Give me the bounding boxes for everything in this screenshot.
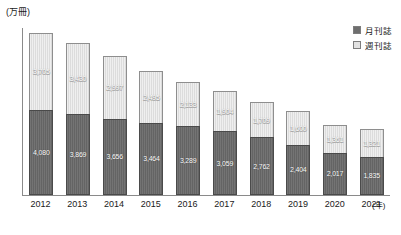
bar-group: 1,6002,404 bbox=[280, 28, 317, 195]
bar-value-weekly: 3,705 bbox=[33, 68, 50, 75]
bar-value-monthly: 3,059 bbox=[217, 160, 234, 167]
bar-value-weekly: 1,321 bbox=[363, 140, 380, 147]
bar-segment-weekly: 1,600 bbox=[286, 111, 310, 144]
stacked-bar: 1,6002,404 bbox=[286, 111, 310, 195]
x-axis-tick-label: 2018 bbox=[243, 199, 280, 209]
bar-segment-weekly: 2,997 bbox=[103, 56, 127, 119]
x-axis-unit-label: (年) bbox=[372, 199, 385, 210]
stacked-bar: 1,7092,762 bbox=[250, 102, 274, 195]
bar-value-monthly: 3,869 bbox=[70, 151, 87, 158]
bar-segment-monthly: 3,869 bbox=[66, 114, 90, 195]
x-axis-tick-label: 2016 bbox=[169, 199, 206, 209]
x-axis-tick-label: 2015 bbox=[132, 199, 169, 209]
bar-value-monthly: 2,762 bbox=[253, 163, 270, 170]
stacked-bar: 1,3612,017 bbox=[323, 124, 347, 195]
bar-group: 1,9043,059 bbox=[207, 28, 244, 195]
bar-group: 2,1333,289 bbox=[170, 28, 207, 195]
stacked-bar: 2,4953,464 bbox=[139, 71, 163, 195]
bar-value-weekly: 3,430 bbox=[70, 75, 87, 82]
stacked-bar: 3,4303,869 bbox=[66, 43, 90, 195]
stacked-bar: 2,1333,289 bbox=[176, 82, 200, 195]
x-axis-tick-label: 2014 bbox=[96, 199, 133, 209]
bar-value-monthly: 4,080 bbox=[33, 149, 50, 156]
bar-series-container: 3,7054,0803,4303,8692,9973,6562,4953,464… bbox=[23, 28, 390, 195]
bar-segment-monthly: 2,017 bbox=[323, 153, 347, 195]
bar-value-weekly: 1,904 bbox=[217, 108, 234, 115]
plot-area: 3,7054,0803,4303,8692,9973,6562,4953,464… bbox=[22, 28, 390, 196]
bar-value-monthly: 3,464 bbox=[143, 155, 160, 162]
x-axis-labels: 2012201320142015201620172018201920202021 bbox=[22, 199, 390, 209]
bar-segment-weekly: 3,430 bbox=[66, 43, 90, 115]
bar-segment-weekly: 1,709 bbox=[250, 102, 274, 138]
bar-value-weekly: 2,495 bbox=[143, 94, 160, 101]
bar-segment-weekly: 1,361 bbox=[323, 125, 347, 153]
bar-segment-monthly: 3,464 bbox=[139, 123, 163, 195]
bar-value-monthly: 1,835 bbox=[363, 172, 380, 179]
x-axis-tick-label: 2020 bbox=[316, 199, 353, 209]
bar-group: 2,4953,464 bbox=[133, 28, 170, 195]
stacked-bar: 2,9973,656 bbox=[103, 56, 127, 195]
bar-segment-weekly: 2,495 bbox=[139, 71, 163, 123]
y-axis-unit-label: (万冊) bbox=[6, 5, 30, 18]
stacked-bar: 1,3211,835 bbox=[360, 129, 384, 195]
x-axis-tick-label: 2012 bbox=[22, 199, 59, 209]
bar-group: 3,4303,869 bbox=[60, 28, 97, 195]
bar-segment-monthly: 1,835 bbox=[360, 157, 384, 195]
bar-segment-monthly: 4,080 bbox=[29, 110, 53, 195]
bar-segment-monthly: 3,289 bbox=[176, 126, 200, 195]
bar-group: 2,9973,656 bbox=[96, 28, 133, 195]
bar-segment-weekly: 3,705 bbox=[29, 33, 53, 110]
bar-group: 3,7054,080 bbox=[23, 28, 60, 195]
magazine-circulation-chart: (万冊) 月刊誌 週刊誌 3,7054,0803,4303,8692,9973,… bbox=[0, 0, 401, 235]
bar-value-weekly: 2,133 bbox=[180, 101, 197, 108]
bar-group: 1,3211,835 bbox=[353, 28, 390, 195]
x-axis-tick-label: 2017 bbox=[206, 199, 243, 209]
bar-segment-monthly: 3,656 bbox=[103, 119, 127, 195]
bar-group: 1,3612,017 bbox=[317, 28, 354, 195]
bar-segment-monthly: 2,404 bbox=[286, 145, 310, 195]
bar-value-weekly: 1,600 bbox=[290, 125, 307, 132]
bar-value-weekly: 1,361 bbox=[327, 136, 344, 143]
bar-group: 1,7092,762 bbox=[243, 28, 280, 195]
bar-segment-weekly: 2,133 bbox=[176, 82, 200, 127]
bar-value-monthly: 3,656 bbox=[106, 153, 123, 160]
bar-value-monthly: 2,404 bbox=[290, 166, 307, 173]
bar-value-monthly: 2,017 bbox=[327, 170, 344, 177]
bar-segment-monthly: 3,059 bbox=[213, 131, 237, 195]
x-axis-line bbox=[22, 195, 390, 196]
bar-segment-monthly: 2,762 bbox=[250, 137, 274, 195]
bar-segment-weekly: 1,321 bbox=[360, 129, 384, 157]
x-axis-tick-label: 2013 bbox=[59, 199, 96, 209]
bar-value-monthly: 3,289 bbox=[180, 157, 197, 164]
bar-value-weekly: 2,997 bbox=[106, 84, 123, 91]
stacked-bar: 1,9043,059 bbox=[213, 91, 237, 195]
x-axis-tick-label: 2019 bbox=[280, 199, 317, 209]
stacked-bar: 3,7054,080 bbox=[29, 33, 53, 196]
bar-segment-weekly: 1,904 bbox=[213, 91, 237, 131]
bar-value-weekly: 1,709 bbox=[253, 117, 270, 124]
